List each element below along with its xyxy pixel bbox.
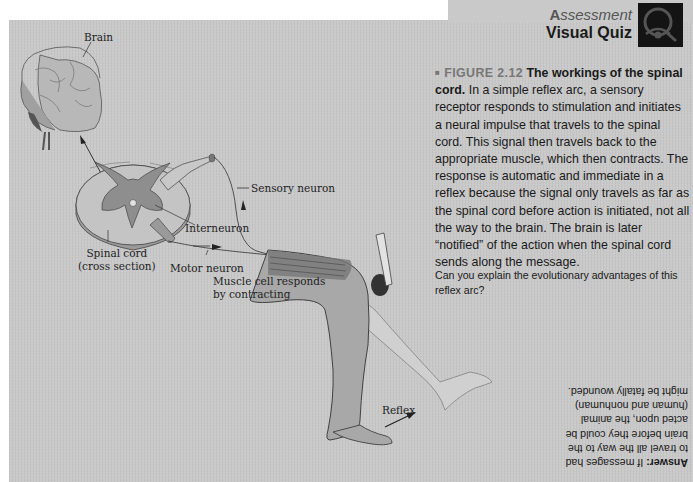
eye-in-q-icon [638, 3, 683, 47]
figure-number: FIGURE 2.12 [435, 66, 523, 80]
section-label-initial: A [549, 6, 560, 23]
label-muscle-cell: Muscle cell responds by contracting [213, 275, 325, 301]
spinal-cord-illustration [76, 154, 215, 250]
section-label-rest: ssessment [560, 6, 632, 23]
quiz-question: Can you explain the evolutionary advanta… [435, 268, 690, 297]
upside-down-answer: Answer: If messages had to travel all th… [560, 385, 688, 470]
label-interneuron: Interneuron [185, 222, 249, 234]
label-muscle-line2: by contracting [213, 288, 325, 301]
answer-label: Answer: [646, 457, 688, 469]
figure-caption: FIGURE 2.12 The workings of the spinal c… [435, 64, 690, 271]
label-spinal-cord-line1: Spinal cord [78, 247, 156, 260]
label-motor-neuron: Motor neuron [170, 262, 244, 274]
caption-body: In a simple reflex arc, a sensory recept… [435, 83, 689, 269]
label-spinal-cord-line2: (cross section) [78, 260, 156, 273]
label-spinal-cord: Spinal cord (cross section) [78, 247, 156, 273]
label-reflex: Reflex [382, 404, 415, 416]
brain-illustration [21, 42, 102, 150]
label-brain: Brain [84, 31, 113, 43]
assessment-header: Assessment Visual Quiz [546, 6, 632, 42]
quiz-title: Visual Quiz [546, 23, 632, 42]
label-sensory-neuron: Sensory neuron [251, 182, 335, 194]
section-label: Assessment [546, 6, 632, 23]
label-muscle-line1: Muscle cell responds [213, 275, 325, 288]
